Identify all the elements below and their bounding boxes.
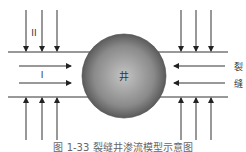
- region-i-label: I: [41, 70, 44, 80]
- fracture-label-bottom: 缝: [234, 78, 243, 89]
- flow-model-diagram: 井 II I 裂 缝: [0, 0, 246, 152]
- well-label: 井: [119, 70, 129, 82]
- figure-caption: 图 1-33 裂缝井渗流模型示意图: [0, 139, 246, 152]
- fracture-label-top: 裂: [234, 62, 243, 72]
- region-ii-label: II: [31, 28, 36, 38]
